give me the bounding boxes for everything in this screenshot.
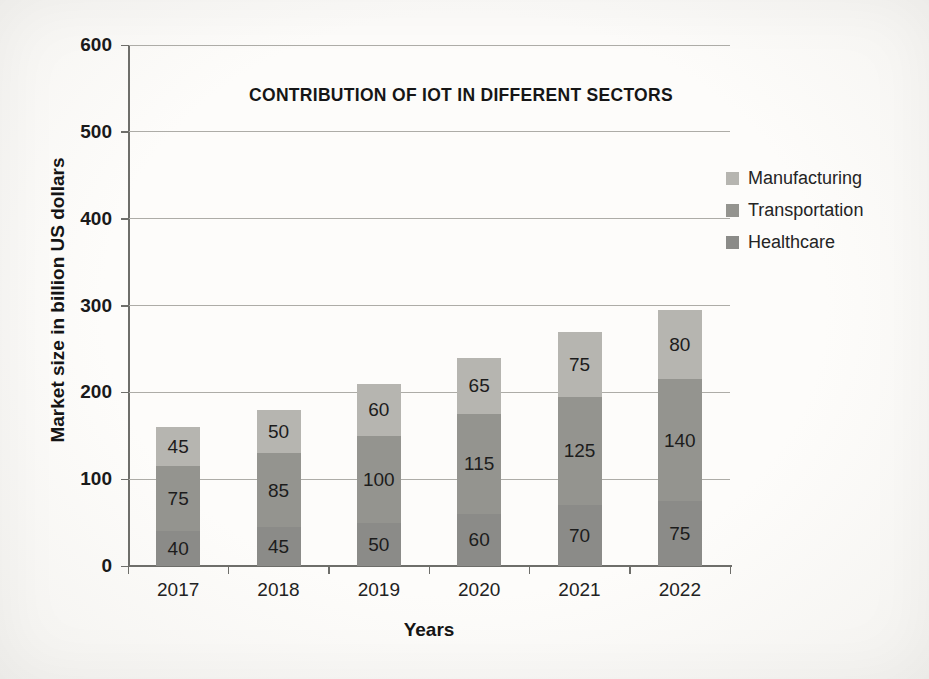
y-tick-mark (121, 131, 129, 133)
legend-label: Transportation (748, 200, 863, 221)
legend-label: Manufacturing (748, 168, 862, 189)
chart-figure: CONTRIBUTION OF IOT IN DIFFERENT SECTORS… (0, 0, 929, 679)
gridline-400 (128, 218, 730, 219)
gridline-500 (128, 131, 730, 132)
segment-value: 60 (469, 530, 490, 549)
segment-value: 125 (564, 441, 596, 460)
x-tick-mark (730, 567, 732, 574)
y-tick-label: 0 (40, 555, 112, 577)
y-tick-label: 200 (40, 381, 112, 403)
legend: ManufacturingTransportationHealthcare (726, 168, 863, 264)
segment-manufacturing-2017: 45 (156, 427, 200, 466)
segment-transportation-2019: 100 (357, 436, 401, 523)
legend-swatch-transportation (726, 204, 739, 217)
y-tick-mark (121, 479, 129, 481)
segment-transportation-2017: 75 (156, 466, 200, 531)
x-tick-label-2021: 2021 (530, 579, 630, 601)
segment-value: 140 (664, 431, 696, 450)
y-tick-mark (121, 218, 129, 220)
segment-transportation-2018: 85 (257, 453, 301, 527)
segment-value: 70 (569, 526, 590, 545)
legend-item-transportation: Transportation (726, 200, 863, 221)
segment-value: 40 (168, 539, 189, 558)
y-tick-label: 100 (40, 468, 112, 490)
segment-value: 60 (368, 400, 389, 419)
legend-swatch-manufacturing (726, 172, 739, 185)
x-tick-label-2018: 2018 (229, 579, 329, 601)
segment-value: 45 (268, 537, 289, 556)
x-tick-label-2022: 2022 (630, 579, 730, 601)
segment-manufacturing-2018: 50 (257, 410, 301, 453)
gridline-100 (128, 479, 730, 480)
segment-manufacturing-2019: 60 (357, 384, 401, 436)
segment-value: 100 (363, 470, 395, 489)
x-tick-label-2020: 2020 (429, 579, 529, 601)
segment-healthcare-2021: 70 (558, 505, 602, 566)
legend-item-manufacturing: Manufacturing (726, 168, 863, 189)
y-tick-mark (121, 392, 129, 394)
y-tick-mark (121, 45, 129, 47)
y-tick-label: 500 (40, 121, 112, 143)
gridline-200 (128, 392, 730, 393)
segment-healthcare-2018: 45 (257, 527, 301, 566)
segment-value: 50 (268, 422, 289, 441)
y-tick-label: 400 (40, 208, 112, 230)
legend-item-healthcare: Healthcare (726, 232, 863, 253)
x-tick-mark (429, 567, 431, 574)
segment-healthcare-2017: 40 (156, 531, 200, 566)
segment-value: 85 (268, 481, 289, 500)
plot-area: 4075454585505010060601156570125757514080 (128, 45, 730, 566)
segment-transportation-2021: 125 (558, 397, 602, 506)
segment-value: 65 (469, 376, 490, 395)
segment-transportation-2022: 140 (658, 379, 702, 501)
y-tick-mark (121, 305, 129, 307)
y-tick-label: 600 (40, 34, 112, 56)
gridline-600 (128, 45, 730, 46)
gridline-300 (128, 305, 730, 306)
segment-value: 45 (168, 437, 189, 456)
x-tick-mark (529, 567, 531, 574)
x-tick-mark (128, 567, 130, 574)
x-tick-mark (629, 567, 631, 574)
x-tick-label-2017: 2017 (128, 579, 228, 601)
x-axis-title: Years (329, 619, 529, 641)
segment-healthcare-2022: 75 (658, 501, 702, 566)
x-tick-mark (228, 567, 230, 574)
segment-healthcare-2020: 60 (457, 514, 501, 566)
segment-manufacturing-2022: 80 (658, 310, 702, 379)
segment-transportation-2020: 115 (457, 414, 501, 514)
segment-value: 115 (464, 454, 494, 473)
segment-healthcare-2019: 50 (357, 523, 401, 566)
x-tick-label-2019: 2019 (329, 579, 429, 601)
segment-value: 75 (569, 355, 590, 374)
x-tick-mark (328, 567, 330, 574)
segment-value: 80 (669, 335, 690, 354)
legend-label: Healthcare (748, 232, 835, 253)
segment-value: 75 (168, 489, 189, 508)
segment-value: 75 (669, 524, 690, 543)
segment-value: 50 (368, 535, 389, 554)
y-tick-label: 300 (40, 295, 112, 317)
x-axis-line (128, 565, 732, 567)
legend-swatch-healthcare (726, 236, 739, 249)
segment-manufacturing-2021: 75 (558, 332, 602, 397)
segment-manufacturing-2020: 65 (457, 358, 501, 414)
